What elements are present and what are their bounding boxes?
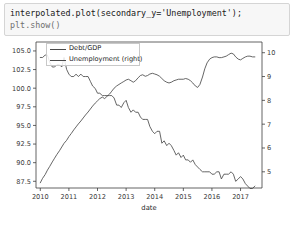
left-axis-tick-label: 90.0	[16, 159, 31, 167]
legend-swatch-unemployment	[50, 60, 66, 61]
legend-label-debt-gdp: Debt/GDP	[69, 44, 101, 52]
legend-swatch-debt-gdp	[50, 49, 66, 50]
legend-label-unemployment: Unemployment (right)	[69, 55, 142, 63]
code-cell[interactable]: interpolated.plot(secondary_y='Unemploym…	[4, 3, 290, 36]
right-axis-tick-label: 10	[267, 49, 275, 57]
right-axis-tick-label: 7	[267, 121, 271, 129]
chart-legend: Debt/GDP Unemployment (right)	[46, 43, 140, 66]
left-axis-tick-label: 105.0	[12, 47, 31, 55]
code-line-1: interpolated.plot(secondary_y='Unemploym…	[10, 7, 284, 19]
x-axis-tick-label: 2017	[232, 193, 249, 201]
legend-item-debt-gdp: Debt/GDP	[47, 45, 139, 55]
right-axis-tick-label: 5	[267, 168, 271, 176]
left-axis-tick-label: 87.5	[16, 178, 31, 186]
x-axis-tick-label: 2012	[89, 193, 106, 201]
x-axis-tick-label: 2014	[146, 193, 163, 201]
x-axis-title: date	[141, 204, 156, 212]
matplotlib-figure: 87.590.092.595.097.5100.0102.5105.056789…	[0, 38, 299, 225]
series-line-debt-gdp	[40, 53, 255, 183]
legend-item-unemployment: Unemployment (right)	[47, 56, 139, 66]
notebook-output-screenshot: interpolated.plot(secondary_y='Unemploym…	[0, 0, 299, 225]
x-axis-tick-label: 2016	[204, 193, 221, 201]
x-axis-tick-label: 2011	[61, 193, 78, 201]
x-axis-tick-label: 2010	[32, 193, 49, 201]
right-axis-tick-label: 6	[267, 144, 271, 152]
left-axis-tick-label: 92.5	[16, 140, 31, 148]
dual-axis-line-chart: 87.590.092.595.097.5100.0102.5105.056789…	[0, 38, 299, 225]
code-line-2: plt.show()	[10, 19, 284, 31]
right-axis-tick-label: 8	[267, 97, 271, 105]
left-axis-tick-label: 95.0	[16, 122, 31, 130]
left-axis-tick-label: 97.5	[16, 103, 31, 111]
right-axis-tick-label: 9	[267, 73, 271, 81]
left-axis-tick-label: 100.0	[12, 85, 31, 93]
x-axis-tick-label: 2015	[175, 193, 192, 201]
left-axis-tick-label: 102.5	[12, 66, 31, 74]
x-axis-tick-label: 2013	[118, 193, 135, 201]
